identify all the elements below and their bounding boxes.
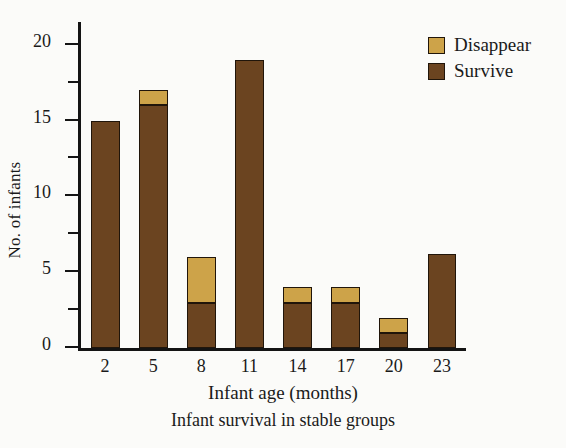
y-axis-title: No. of infants	[2, 100, 28, 320]
chart-legend: DisappearSurvive	[428, 32, 531, 84]
bar-stack[interactable]	[187, 257, 216, 348]
y-tick-label: 0	[42, 334, 51, 354]
y-tick-major: 0	[65, 346, 78, 348]
x-tick-label: 14	[274, 356, 322, 376]
y-tick-major: 15	[65, 119, 78, 121]
bar-segment-survive[interactable]	[379, 333, 408, 348]
legend-swatch-disappear	[428, 37, 445, 54]
bar-segment-survive[interactable]	[331, 303, 360, 348]
x-axis-title: Infant age (months)	[0, 382, 566, 404]
bar-segment-survive[interactable]	[235, 60, 264, 348]
y-tick-major: 5	[65, 270, 78, 272]
bar-stack[interactable]	[331, 287, 360, 348]
y-tick-label: 5	[42, 258, 51, 278]
y-tick-minor	[68, 156, 78, 158]
chart-figure: No. of infants 05101520 2581114172023 Di…	[0, 0, 566, 448]
y-tick-label: 15	[33, 107, 51, 127]
legend-label: Survive	[454, 60, 513, 82]
y-tick-minor	[68, 308, 78, 310]
y-tick-major: 20	[65, 43, 78, 45]
bar-stack[interactable]	[235, 60, 264, 348]
legend-swatch-survive	[428, 63, 445, 80]
x-tick-label: 23	[418, 356, 466, 376]
y-axis-title-text: No. of infants	[5, 162, 25, 259]
bar-segment-disappear[interactable]	[139, 90, 168, 105]
x-tick-label: 17	[322, 356, 370, 376]
bar-segment-survive[interactable]	[139, 105, 168, 348]
bar-segment-survive[interactable]	[187, 303, 216, 348]
figure-caption: Infant survival in stable groups	[0, 410, 566, 431]
legend-item[interactable]: Disappear	[428, 32, 531, 58]
x-tick-label: 5	[129, 356, 177, 376]
bar-stack[interactable]	[139, 90, 168, 348]
y-tick-label: 20	[33, 31, 51, 51]
x-tick-label: 20	[370, 356, 418, 376]
legend-item[interactable]: Survive	[428, 58, 531, 84]
y-tick-minor	[68, 232, 78, 234]
bar-stack[interactable]	[91, 121, 120, 348]
bar-segment-disappear[interactable]	[379, 318, 408, 333]
bar-segment-survive[interactable]	[283, 303, 312, 348]
bar-stack[interactable]	[428, 254, 457, 348]
bar-segment-disappear[interactable]	[331, 287, 360, 302]
y-tick-minor	[68, 81, 78, 83]
bar-segment-disappear[interactable]	[187, 257, 216, 302]
bar-segment-survive[interactable]	[91, 121, 120, 348]
bar-segment-disappear[interactable]	[283, 287, 312, 302]
x-axis-line	[78, 348, 466, 351]
bar-series	[81, 22, 466, 348]
x-tick-label: 8	[177, 356, 225, 376]
bar-stack[interactable]	[283, 287, 312, 348]
y-tick-major: 10	[65, 194, 78, 196]
bar-segment-survive[interactable]	[428, 254, 457, 348]
x-tick-label: 11	[225, 356, 273, 376]
y-tick-label: 10	[33, 182, 51, 202]
bar-stack[interactable]	[379, 318, 408, 348]
x-tick-label: 2	[81, 356, 129, 376]
plot-area: 05101520 2581114172023	[78, 22, 466, 348]
legend-label: Disappear	[454, 34, 531, 56]
